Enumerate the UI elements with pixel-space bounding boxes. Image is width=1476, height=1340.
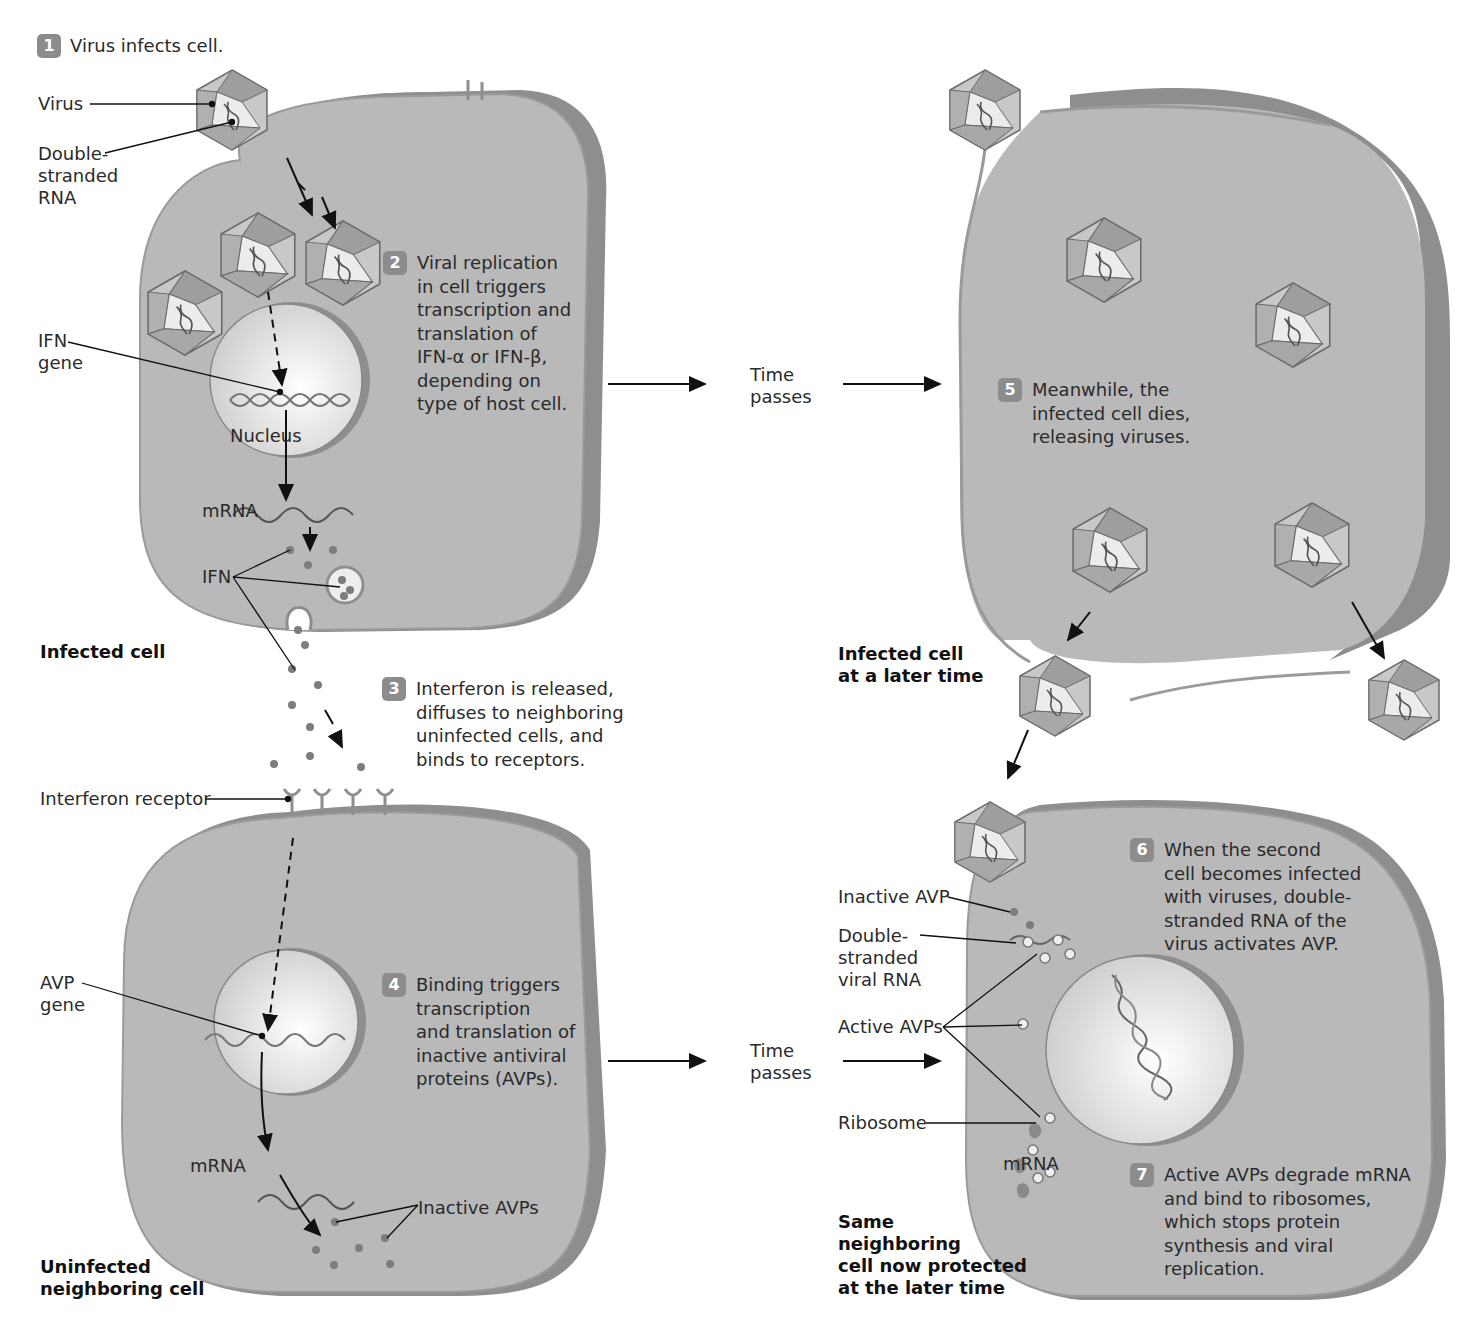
- label-ribosome: Ribosome: [838, 1112, 927, 1134]
- label-ifn: IFN: [202, 566, 231, 588]
- step-6: 6 When the second cell becomes infected …: [1164, 838, 1361, 956]
- step-badge: 7: [1130, 1163, 1154, 1187]
- label-inactive-avp: Inactive AVP: [838, 886, 949, 908]
- step-7: 7 Active AVPs degrade mRNA and bind to r…: [1164, 1163, 1411, 1281]
- label-interferon-receptor: Interferon receptor: [40, 788, 211, 810]
- label-time-passes-2: Time passes: [750, 1040, 812, 1084]
- label-ifn-gene: IFN gene: [38, 330, 83, 374]
- step-2: 2 Viral replication in cell triggers tra…: [417, 251, 571, 416]
- caption-infected-cell: Infected cell: [40, 641, 165, 663]
- step-badge: 4: [382, 973, 406, 997]
- caption-uninfected: Uninfected neighboring cell: [40, 1256, 204, 1300]
- label-inactive-avps: Inactive AVPs: [418, 1197, 539, 1219]
- label-ds-viral-rna: Double- stranded viral RNA: [838, 925, 921, 991]
- label-mrna-2: mRNA: [190, 1155, 246, 1177]
- step-badge: 1: [37, 34, 61, 58]
- label-nucleus: Nucleus: [230, 425, 302, 447]
- step-badge: 3: [382, 677, 406, 701]
- caption-protected: Same neighboring cell now protected at t…: [838, 1211, 1027, 1299]
- label-time-passes-1: Time passes: [750, 364, 812, 408]
- step-badge: 2: [383, 251, 407, 275]
- step-5: 5 Meanwhile, the infected cell dies, rel…: [1032, 378, 1190, 449]
- step-badge: 6: [1130, 838, 1154, 862]
- label-active-avps: Active AVPs: [838, 1016, 943, 1038]
- label-dsrna: Double- stranded RNA: [38, 143, 118, 209]
- label-virus: Virus: [38, 93, 83, 115]
- label-mrna: mRNA: [202, 500, 258, 522]
- step-1: 1 Virus infects cell.: [70, 34, 223, 58]
- diagram-canvas: [0, 0, 1476, 1340]
- caption-infected-later: Infected cell at a later time: [838, 643, 983, 687]
- step-3: 3 Interferon is released, diffuses to ne…: [416, 677, 624, 771]
- dying-cell: [950, 70, 1450, 740]
- interferon-molecules: [270, 665, 365, 771]
- label-avp-gene: AVP gene: [40, 972, 85, 1016]
- step-badge: 5: [998, 378, 1022, 402]
- label-mrna-3: mRNA: [1003, 1153, 1059, 1175]
- step-4: 4 Binding triggers transcription and tra…: [416, 973, 575, 1091]
